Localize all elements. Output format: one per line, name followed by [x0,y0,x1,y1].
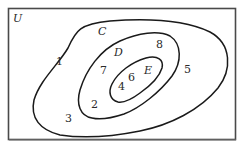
element-7: 7 [100,64,107,77]
element-1: 1 [56,55,63,68]
venn-diagram-svg: U C D E 1 7 8 6 4 5 2 3 [0,0,242,148]
set-e-label: E [143,64,152,77]
element-8: 8 [156,38,163,51]
element-2: 2 [91,98,98,111]
venn-diagram: U C D E 1 7 8 6 4 5 2 3 [0,0,242,148]
element-3: 3 [65,112,72,125]
universe-label: U [13,12,23,25]
element-6: 6 [128,71,135,84]
element-5: 5 [184,63,191,76]
set-c-label: C [98,25,107,38]
set-d-label: D [113,46,123,59]
element-4: 4 [118,80,125,93]
